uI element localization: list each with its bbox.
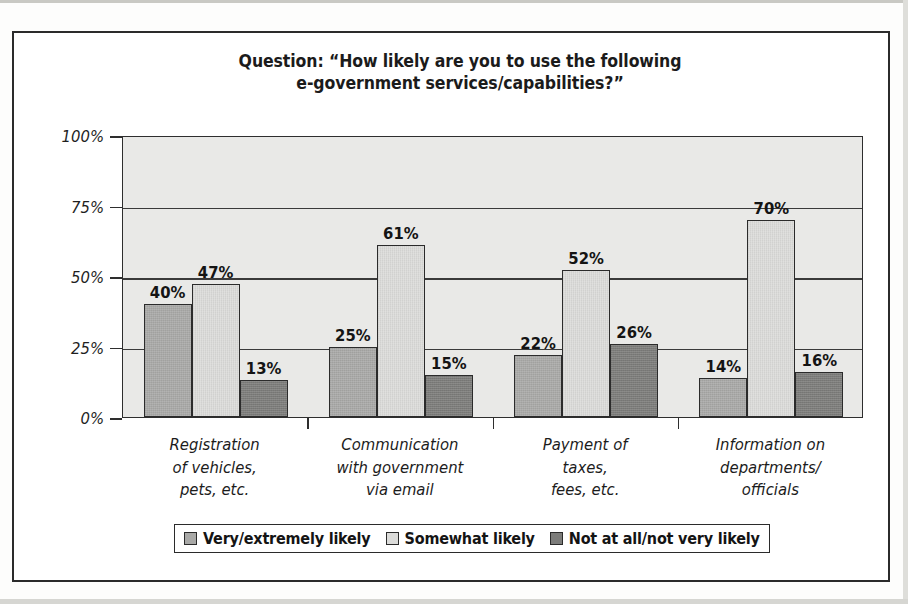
category-label-1-line-0: Communication — [293, 434, 506, 457]
bar-label-g0-s2: 13% — [234, 359, 294, 378]
bar-texture — [378, 246, 424, 416]
chart-page: Question: “How likely are you to use the… — [0, 0, 908, 604]
y-tick-label-75: 75% — [14, 197, 104, 216]
legend-item-0[interactable]: Very/extremely likely — [184, 529, 371, 548]
y-tick-label-0: 0% — [14, 409, 104, 428]
category-label-0-line-2: pets, etc. — [108, 479, 321, 502]
chart-area: 40%47%13%25%61%15%22%52%26%14%70%16% 0%2… — [0, 0, 908, 604]
category-label-1-line-2: via email — [293, 479, 506, 502]
y-tick-75 — [110, 207, 122, 209]
category-label-3-line-1: departments/ — [664, 457, 877, 480]
category-label-3-line-2: officials — [664, 479, 877, 502]
category-label-2-line-1: taxes, — [479, 457, 692, 480]
legend-item-1[interactable]: Somewhat likely — [386, 529, 535, 548]
bar-texture — [748, 221, 794, 416]
category-label-1: Communicationwith governmentvia email — [293, 434, 506, 502]
category-label-3-line-0: Information on — [664, 434, 877, 457]
legend-label-0: Very/extremely likely — [203, 529, 371, 548]
category-label-0-line-1: of vehicles, — [108, 457, 321, 480]
bar-g0-s0 — [144, 304, 192, 417]
y-tick-25 — [110, 348, 122, 350]
group-separator-3 — [678, 418, 680, 429]
bar-g1-s0 — [329, 347, 377, 418]
legend-item-2[interactable]: Not at all/not very likely — [550, 529, 760, 548]
bar-label-g2-s2: 26% — [604, 323, 664, 342]
bar-g1-s1 — [377, 245, 425, 417]
bar-texture — [330, 348, 376, 417]
category-label-2: Payment oftaxes,fees, etc. — [479, 434, 692, 502]
bar-g2-s1 — [562, 270, 610, 417]
group-separator-2 — [493, 418, 495, 429]
y-tick-100 — [110, 136, 122, 138]
chart-legend: Very/extremely likelySomewhat likelyNot … — [174, 524, 770, 553]
bar-label-g3-s2: 16% — [789, 351, 849, 370]
category-label-3: Information ondepartments/officials — [664, 434, 877, 502]
bar-g0-s1 — [192, 284, 240, 417]
legend-label-1: Somewhat likely — [405, 529, 535, 548]
bar-label-g0-s1: 47% — [186, 263, 246, 282]
bar-texture — [796, 373, 842, 416]
y-tick-0 — [110, 418, 122, 420]
bar-texture — [700, 379, 746, 416]
bar-label-g0-s0: 40% — [138, 283, 198, 302]
category-label-2-line-2: fees, etc. — [479, 479, 692, 502]
bar-g3-s1 — [747, 220, 795, 417]
legend-swatch-1 — [386, 532, 399, 545]
bar-label-g1-s1: 61% — [371, 224, 431, 243]
bar-texture — [611, 345, 657, 416]
y-tick-50 — [110, 277, 122, 279]
bar-g3-s2 — [795, 372, 843, 417]
category-label-0-line-0: Registration — [108, 434, 321, 457]
bar-texture — [193, 285, 239, 416]
y-tick-label-50: 50% — [14, 268, 104, 287]
category-label-1-line-1: with government — [293, 457, 506, 480]
bar-g0-s2 — [240, 380, 288, 417]
bar-label-g1-s2: 15% — [419, 354, 479, 373]
bar-label-g1-s0: 25% — [323, 326, 383, 345]
legend-label-2: Not at all/not very likely — [569, 529, 760, 548]
bar-texture — [515, 356, 561, 416]
legend-swatch-0 — [184, 532, 197, 545]
bar-texture — [241, 381, 287, 416]
y-tick-label-100: 100% — [14, 127, 104, 146]
bar-texture — [563, 271, 609, 416]
bar-g3-s0 — [699, 378, 747, 417]
bar-g2-s2 — [610, 344, 658, 417]
y-tick-label-25: 25% — [14, 338, 104, 357]
group-separator-1 — [307, 418, 309, 429]
bar-texture — [145, 305, 191, 416]
bar-label-g3-s0: 14% — [693, 357, 753, 376]
bar-label-g2-s1: 52% — [556, 249, 616, 268]
bar-texture — [426, 376, 472, 416]
category-label-0: Registrationof vehicles,pets, etc. — [108, 434, 321, 502]
category-label-2-line-0: Payment of — [479, 434, 692, 457]
bar-g2-s0 — [514, 355, 562, 417]
bar-label-g2-s0: 22% — [508, 334, 568, 353]
bar-label-g3-s1: 70% — [741, 199, 801, 218]
legend-swatch-2 — [550, 532, 563, 545]
bar-g1-s2 — [425, 375, 473, 417]
plot-area: 40%47%13%25%61%15%22%52%26%14%70%16% — [122, 136, 863, 418]
